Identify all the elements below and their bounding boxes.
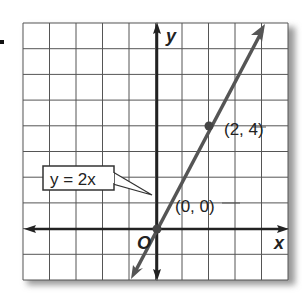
coordinate-graph: (2, 4) (0, 0) y x O y = 2x: [0, 0, 302, 297]
point-label-2-4: (2, 4): [224, 120, 264, 139]
y-axis-label: y: [165, 26, 177, 46]
origin-label: O: [137, 233, 151, 253]
x-axis-label: x: [273, 233, 285, 253]
equation-label: y = 2x: [50, 170, 96, 189]
point-label-origin: (0, 0): [175, 197, 215, 216]
point-origin: [153, 225, 162, 234]
point-2-4: [205, 122, 214, 131]
